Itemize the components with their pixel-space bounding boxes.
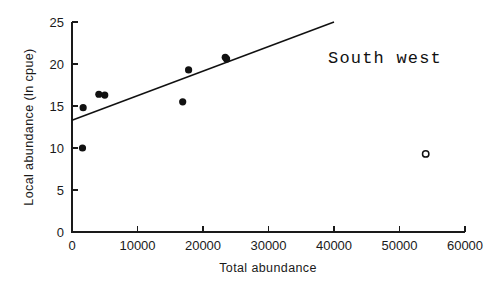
data-point xyxy=(80,104,87,111)
data-point xyxy=(223,55,230,62)
y-tick-marks xyxy=(72,22,78,232)
x-tick-label: 20000 xyxy=(185,238,221,253)
x-tick-label: 50000 xyxy=(381,238,417,253)
y-tick-label: 15 xyxy=(50,99,64,114)
x-tick-label: 30000 xyxy=(250,238,286,253)
data-point xyxy=(101,91,108,98)
x-tick-marks xyxy=(72,226,465,232)
y-axis-title: Local abundance (ln cpue) xyxy=(22,48,36,205)
x-tick-label: 40000 xyxy=(316,238,352,253)
y-tick-label: 20 xyxy=(50,57,64,72)
x-tick-labels: 0 10000 20000 30000 40000 50000 60000 xyxy=(68,238,483,253)
x-tick-label: 60000 xyxy=(447,238,483,253)
data-series-filled xyxy=(79,54,230,152)
y-tick-label: 25 xyxy=(50,15,64,30)
y-tick-label: 0 xyxy=(57,225,64,240)
y-tick-labels: 0 5 10 15 20 25 xyxy=(50,15,64,240)
data-point-outlier xyxy=(423,151,429,157)
data-point xyxy=(185,66,192,73)
x-tick-label: 0 xyxy=(68,238,75,253)
scatter-plot-svg: 0 5 10 15 20 25 0 10000 20000 30000 4000… xyxy=(0,0,502,286)
data-point xyxy=(79,144,86,151)
data-point xyxy=(179,98,186,105)
panel-annotation-label: South west xyxy=(328,49,442,68)
y-tick-label: 10 xyxy=(50,141,64,156)
x-tick-label: 10000 xyxy=(119,238,155,253)
chart-figure: 0 5 10 15 20 25 0 10000 20000 30000 4000… xyxy=(0,0,502,286)
x-axis-title: Total abundance xyxy=(219,261,317,275)
y-tick-label: 5 xyxy=(57,183,64,198)
regression-line xyxy=(72,22,334,120)
data-series-open xyxy=(423,151,429,157)
